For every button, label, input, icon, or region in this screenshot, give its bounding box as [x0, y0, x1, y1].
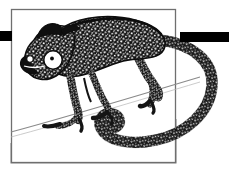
- snout-highlight-spot: [27, 56, 33, 62]
- right-black-bar: [180, 32, 229, 42]
- illustration-canvas: Black and white stippled drawing of a ch…: [0, 0, 233, 172]
- chameleon-illustration: [0, 0, 233, 172]
- eye-pupil: [50, 57, 54, 61]
- left-black-bar: [0, 31, 12, 41]
- hind-claw: [152, 103, 154, 113]
